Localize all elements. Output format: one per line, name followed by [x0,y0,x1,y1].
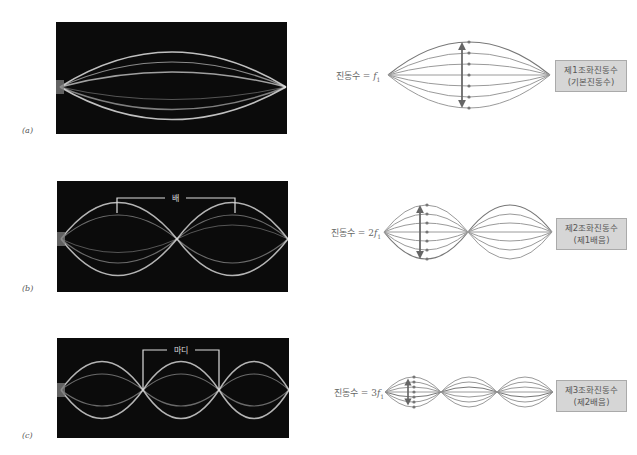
diagram-a-points [467,40,470,109]
frequency-subscript: 1 [377,233,381,240]
diagram-b-wave [384,205,552,259]
harmonic-name: 제2조화진동수 [559,222,624,234]
frequency-label-a: 진동수 = f1 [336,69,380,83]
diagram-c-wave [385,377,553,407]
frequency-prefix: 진동수 = [334,388,371,398]
frequency-label-c: 진동수 = 3f1 [334,386,384,400]
standing-wave-diagrams [0,0,637,455]
harmonic-alias: (제1배음) [559,234,624,246]
frequency-label-b: 진동수 = 2f1 [331,226,381,240]
diagram-b-points [425,203,428,260]
harmonic-alias: (제2배음) [559,396,624,408]
frequency-subscript: 1 [377,76,381,83]
harmonic-box-c: 제3조화진동수 (제2배음) [556,380,627,412]
frequency-prefix: 진동수 = [336,71,373,81]
harmonic-box-a: 제1조화진동수 (기본진동수) [555,60,627,92]
diagram-c-points [412,375,415,408]
frequency-prefix: 진동수 = [331,228,368,238]
harmonic-name: 제3조화진동수 [559,384,624,396]
harmonic-alias: (기본진동수) [558,76,624,88]
frequency-subscript: 1 [380,393,384,400]
harmonic-box-b: 제2조화진동수 (제1배음) [556,218,627,250]
harmonic-name: 제1조화진동수 [558,64,624,76]
